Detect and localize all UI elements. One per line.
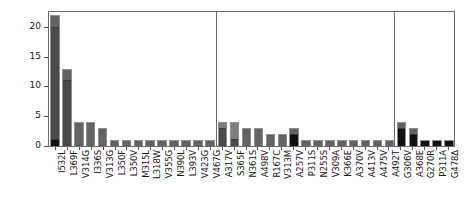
x-axis-tick-label: I532L: [58, 150, 67, 173]
panel-1: [49, 12, 216, 146]
bar-segment: [290, 135, 298, 146]
x-axis-tick-label: A317V: [225, 150, 234, 177]
bar-segment: [398, 129, 406, 146]
x-axis-labels: I532LL369FV314GI336SV313GL350FL350VM315L…: [48, 147, 455, 205]
x-axis-tick-label: V355G: [165, 150, 174, 178]
bar-segment: [314, 141, 322, 146]
x-axis-tick-label: N255S: [320, 150, 329, 177]
x-axis-tick-mark: [377, 147, 378, 150]
x-axis-tick-label: V314G: [82, 150, 91, 178]
panel-inner: [395, 12, 454, 146]
bar-segment: [433, 141, 441, 146]
x-axis-tick-label: A370V: [356, 150, 365, 177]
x-axis-tick-label: A475V: [380, 150, 389, 177]
x-axis-tick-mark: [234, 147, 235, 150]
bar: [169, 140, 179, 146]
bar-segment: [170, 141, 178, 146]
bar-segment: [350, 141, 358, 146]
bar: [242, 128, 252, 146]
x-axis-tick-label: L369F: [70, 150, 79, 175]
y-axis-tick-label: 5: [35, 110, 41, 121]
x-axis-tick-label: R167C: [273, 150, 282, 178]
bar-segment: [326, 141, 334, 146]
x-axis-tick-label: V467G: [213, 150, 222, 178]
bar: [74, 122, 84, 146]
x-axis-tick-label: V423G: [201, 150, 210, 178]
x-axis-tick-label: N390L: [177, 150, 186, 177]
bar-segment: [87, 123, 95, 146]
bar: [193, 140, 203, 146]
bar-segment: [63, 70, 71, 82]
x-axis-tick-mark: [55, 147, 56, 150]
x-axis-tick-label: A492T: [392, 150, 401, 177]
x-axis-tick-mark: [150, 147, 151, 150]
x-axis-tick-mark: [115, 147, 116, 150]
x-axis-tick-mark: [424, 147, 425, 150]
x-axis-tick-label: L350V: [130, 150, 139, 176]
x-axis-tick-label: G270R: [427, 150, 436, 178]
x-axis-tick-mark: [103, 147, 104, 150]
bar-segment: [362, 141, 370, 146]
x-axis-tick-mark: [353, 147, 354, 150]
bar: [444, 140, 454, 146]
bar-segment: [99, 129, 107, 146]
x-axis-tick-mark: [388, 147, 389, 150]
bar: [409, 128, 419, 146]
bar-segment: [338, 141, 346, 146]
bar-segment: [219, 129, 227, 146]
x-axis-tick-label: L393V: [189, 150, 198, 176]
bar: [254, 128, 264, 146]
bar: [289, 128, 299, 146]
bar-segment: [445, 141, 453, 146]
bar-segment: [243, 129, 251, 146]
x-axis-tick-mark: [126, 147, 127, 150]
x-axis-tick-mark: [67, 147, 68, 150]
bar: [50, 15, 60, 146]
bar-segment: [374, 141, 382, 146]
x-axis-tick-mark: [257, 147, 258, 150]
x-axis-tick-mark: [162, 147, 163, 150]
bar: [325, 140, 335, 146]
bar: [349, 140, 359, 146]
bar: [432, 140, 442, 146]
x-axis-tick-label: L350F: [118, 150, 127, 175]
x-axis-tick-mark: [341, 147, 342, 150]
x-axis-tick-mark: [269, 147, 270, 150]
bar: [278, 134, 288, 146]
bar-chart-figure: 05101520 I532LL369FV314GI336SV313GL350FL…: [0, 0, 470, 205]
x-axis-tick-label: A413V: [368, 150, 377, 177]
x-axis-tick-label: G478Δ: [451, 150, 460, 178]
x-axis-tick-mark: [412, 147, 413, 150]
y-axis-tick-label: 10: [30, 80, 41, 91]
bar-segment: [267, 135, 275, 146]
bar-segment: [302, 141, 310, 146]
x-axis-tick-mark: [365, 147, 366, 150]
panel-3: [394, 12, 454, 146]
x-axis-tick-mark: [246, 147, 247, 150]
x-axis-tick-label: V313M: [284, 150, 293, 179]
bar: [145, 140, 155, 146]
bar-segment: [410, 135, 418, 146]
bar-segment: [231, 140, 239, 146]
panel-2: [216, 12, 395, 146]
bar-segment: [421, 141, 429, 146]
plot-area: [48, 11, 455, 147]
x-axis-tick-mark: [138, 147, 139, 150]
bar: [385, 140, 395, 146]
bar: [181, 140, 191, 146]
bar-segment: [386, 141, 394, 146]
x-axis-tick-mark: [222, 147, 223, 150]
bar: [266, 134, 276, 146]
bar-segment: [206, 141, 214, 146]
bar-segment: [194, 141, 202, 146]
bar-segment: [279, 135, 287, 146]
bar: [397, 122, 407, 146]
x-axis-tick-label: A257V: [296, 150, 305, 177]
x-axis-tick-label: S365F: [237, 150, 246, 176]
x-axis-tick-label: M315L: [142, 150, 151, 178]
bar-segment: [63, 81, 71, 146]
x-axis-tick-mark: [293, 147, 294, 150]
bar-segment: [123, 141, 131, 146]
x-axis-tick-label: P311A: [439, 150, 448, 177]
x-axis-tick-mark: [436, 147, 437, 150]
